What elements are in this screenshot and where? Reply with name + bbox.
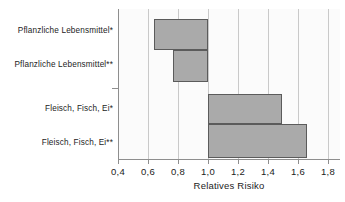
x-tick-1-0 xyxy=(208,159,209,164)
x-axis-line xyxy=(118,159,340,160)
bar-fleisch-fisch-ei-2 xyxy=(208,124,307,158)
x-tick-1-8 xyxy=(328,159,329,164)
plot-area xyxy=(118,9,340,159)
x-tick-0-6 xyxy=(148,159,149,164)
bar-pflanzliche-lebensmittel-1 xyxy=(154,19,208,50)
x-tick-0-8 xyxy=(178,159,179,164)
y-axis-line xyxy=(118,9,119,159)
x-tick-1-4 xyxy=(268,159,269,164)
x-tick-0-4 xyxy=(118,159,119,164)
bar-pflanzliche-lebensmittel-2 xyxy=(173,50,208,82)
gridline-1-8 xyxy=(328,9,329,159)
x-tick-1-6 xyxy=(298,159,299,164)
category-label-pflanzliche-lebensmittel-2: Pflanzliche Lebensmittel** xyxy=(0,60,113,69)
y-axis-group-divider-tick xyxy=(112,88,119,89)
category-label-fleisch-fisch-ei-2: Fleisch, Fisch, Ei** xyxy=(0,138,113,147)
x-axis-title: Relatives Risiko xyxy=(118,180,340,191)
x-tick-1-2 xyxy=(238,159,239,164)
category-label-pflanzliche-lebensmittel-1: Pflanzliche Lebensmittel* xyxy=(0,26,113,35)
x-tick-label-1-8: 1,8 xyxy=(308,166,345,177)
category-label-fleisch-fisch-ei-1: Fleisch, Fisch, Ei* xyxy=(0,104,113,113)
bar-fleisch-fisch-ei-1 xyxy=(208,94,282,124)
relative-risk-bar-chart: 0,4 0,6 0,8 1,0 1,2 1,4 1,6 1,8 Relative… xyxy=(0,0,345,202)
gridline-0-6 xyxy=(148,9,149,159)
